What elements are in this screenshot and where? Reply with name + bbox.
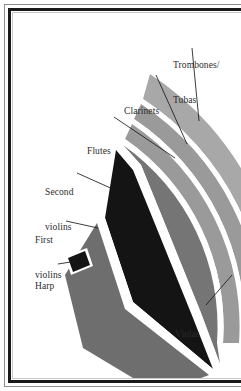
label-harp-line1: Harp [35,281,54,293]
orchestra-seating-diagram: Trombones/ Tubas Clarinets Flutes Second… [13,13,241,378]
label-flutes: Flutes [87,123,111,181]
label-harp: Harp [35,258,54,316]
label-trombones-tubas-line1: Trombones/ [173,60,220,72]
figure-page: Trombones/ Tubas Clarinets Flutes Second… [0,0,241,391]
label-clarinets: Clarinets [124,83,159,141]
label-second-violins-line1: Second [45,187,74,199]
label-violas: Violas [175,306,200,364]
label-trombones-tubas-line2: Tubas [173,95,220,107]
label-first-violins-line1: First [35,235,62,247]
label-violas-line1: Violas [175,329,200,341]
label-flutes-line1: Flutes [87,146,111,158]
label-trombones-tubas: Trombones/ Tubas [173,37,220,129]
label-clarinets-line1: Clarinets [124,106,159,118]
